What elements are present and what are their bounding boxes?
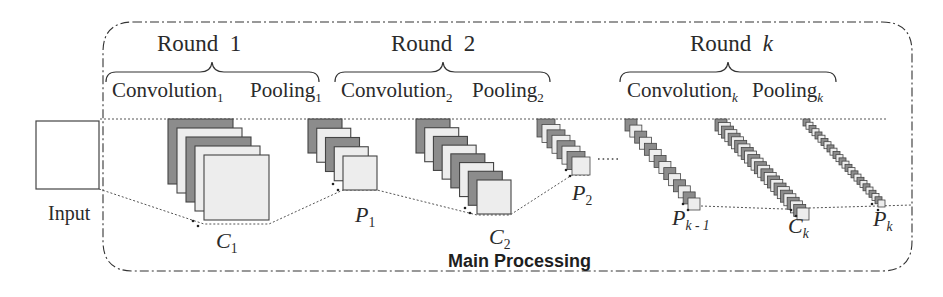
dot-marker bbox=[332, 183, 335, 186]
round-k-title: Round k bbox=[690, 32, 773, 55]
dot-marker bbox=[192, 220, 195, 223]
round-1-title: Round 1 bbox=[157, 32, 241, 55]
node-label-c2: C2 bbox=[489, 226, 511, 251]
dot-marker bbox=[337, 189, 340, 192]
stack-p1 bbox=[308, 119, 377, 190]
round-2-title: Round 2 bbox=[391, 32, 475, 55]
stack-c1 bbox=[168, 119, 269, 220]
feature-map-front bbox=[343, 156, 377, 190]
convolution-2-label: Convolution2 bbox=[341, 80, 453, 104]
node-label-ck: Ck bbox=[788, 215, 809, 240]
dot-marker bbox=[197, 225, 200, 228]
feature-map-stacks bbox=[168, 119, 885, 227]
feature-map-front bbox=[477, 180, 511, 214]
dot-marker bbox=[469, 212, 472, 215]
node-label-pk: Pk bbox=[873, 208, 893, 233]
dot-marker bbox=[569, 175, 572, 178]
dot-marker bbox=[565, 169, 568, 172]
convolution-k-label: Convolutionk bbox=[627, 80, 738, 104]
node-label-c1: C1 bbox=[216, 230, 238, 255]
stack-pk bbox=[803, 119, 885, 207]
main-processing-title: Main Processing bbox=[448, 251, 591, 272]
dot-marker bbox=[790, 209, 793, 212]
dot-marker bbox=[464, 207, 467, 210]
stack-pk-1 bbox=[625, 119, 700, 210]
stack-ck bbox=[715, 119, 809, 220]
feature-map-front bbox=[204, 155, 269, 220]
pooling-k-label: Poolingk bbox=[752, 80, 823, 104]
stack-p2 bbox=[537, 119, 590, 175]
convolution-1-label: Convolution1 bbox=[112, 80, 224, 104]
node-label-p1: P1 bbox=[355, 204, 375, 229]
feature-map-front bbox=[572, 157, 590, 175]
node-label-p2: P2 bbox=[572, 182, 592, 207]
input-label: Input bbox=[48, 203, 90, 223]
node-label-pk-1: Pk - 1 bbox=[672, 207, 710, 232]
pooling-2-label: Pooling2 bbox=[472, 80, 544, 104]
pooling-1-label: Pooling1 bbox=[250, 80, 322, 104]
stack-c2 bbox=[416, 119, 511, 214]
dot-marker bbox=[871, 203, 874, 206]
input-map bbox=[36, 121, 99, 189]
